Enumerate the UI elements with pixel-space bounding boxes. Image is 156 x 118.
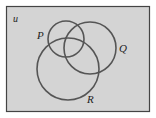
set-q-label: Q <box>119 42 127 54</box>
set-r-label: R <box>86 93 94 105</box>
universal-set-rectangle <box>7 7 150 112</box>
set-p-label: P <box>36 29 44 41</box>
universe-label: u <box>13 13 18 24</box>
venn-diagram: u P Q R <box>0 0 156 118</box>
